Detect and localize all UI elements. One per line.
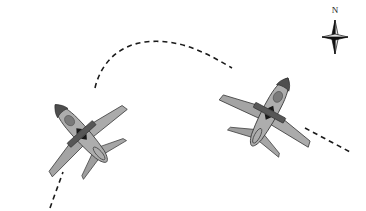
compass-rose: N (322, 5, 348, 54)
diagram-canvas: N (0, 0, 366, 211)
compass-north-label: N (332, 5, 339, 15)
flight-path-arc-segment (95, 41, 232, 88)
left-aircraft (18, 71, 144, 196)
flight-path-outbound-segment (305, 128, 352, 153)
compass-star-icon (322, 20, 348, 54)
flight-path-inbound-segment (50, 172, 63, 208)
aircraft-maneuver-diagram: N (0, 0, 366, 211)
right-aircraft (207, 54, 332, 169)
